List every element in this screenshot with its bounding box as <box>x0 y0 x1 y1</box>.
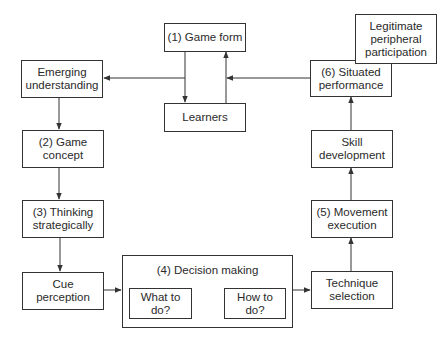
node-learners: Learners <box>164 103 246 132</box>
node-how-to-do: How to do? <box>224 288 286 319</box>
node-technique-selection: Technique selection <box>311 271 393 309</box>
node-what-to-do: What to do? <box>129 288 192 319</box>
node-label: What to do? <box>141 291 181 317</box>
decision-making-title: (4) Decision making <box>123 264 292 276</box>
node-game-concept: (2) Game concept <box>22 130 104 168</box>
node-label: (6) Situated performance <box>319 66 384 92</box>
node-label: Learners <box>182 111 227 124</box>
node-movement-execution: (5) Movement execution <box>311 200 393 238</box>
node-game-form: (1) Game form <box>164 23 246 52</box>
node-cue-perception: Cue perception <box>22 272 104 310</box>
node-label: How to do? <box>237 291 273 317</box>
node-label: Skill development <box>319 136 385 162</box>
node-label: Technique selection <box>326 277 378 303</box>
node-skill-development: Skill development <box>311 130 393 168</box>
node-label: (1) Game form <box>168 31 243 44</box>
node-legitimate-peripheral-participation: Legitimate peripheral participation <box>355 14 437 64</box>
node-label: (3) Thinking strategically <box>33 206 94 232</box>
node-label: Legitimate peripheral participation <box>365 20 427 59</box>
node-label: (5) Movement execution <box>317 206 388 232</box>
node-label: Cue perception <box>36 278 90 304</box>
node-label: Emerging understanding <box>26 66 99 92</box>
node-thinking-strategically: (3) Thinking strategically <box>22 200 104 238</box>
node-situated-performance: (6) Situated performance <box>310 60 392 97</box>
node-label: (2) Game concept <box>39 136 88 162</box>
node-emerging-understanding: Emerging understanding <box>21 60 103 98</box>
